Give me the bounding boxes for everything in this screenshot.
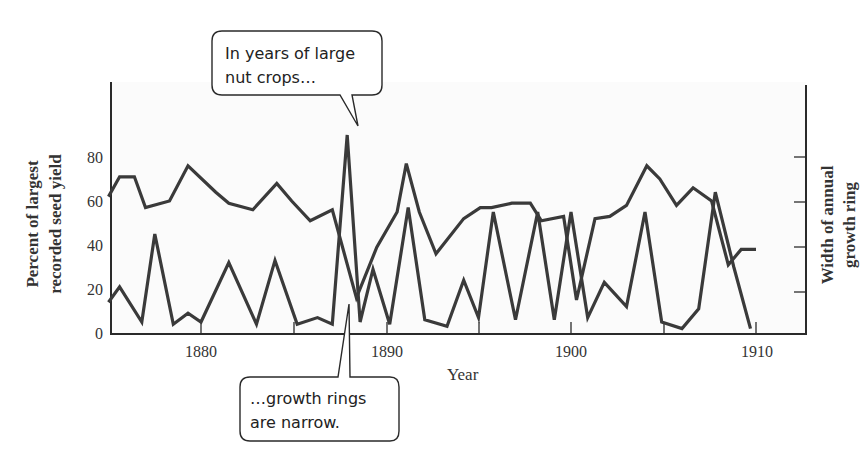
- y-tick-label-60: 60: [87, 193, 103, 210]
- right-y-axis-title: Width of annual growth ring: [818, 165, 859, 284]
- callout-bottom-line2: are narrow.: [250, 413, 340, 432]
- x-tick-label-1880: 1880: [185, 343, 217, 360]
- y-tick-label-20: 20: [87, 281, 103, 298]
- left-y-tick-labels: 80 60 40 20 0: [87, 149, 103, 342]
- left-y-axis-title-line2: recorded seed yield: [46, 154, 65, 294]
- x-tick-label-1900: 1900: [555, 343, 587, 360]
- x-tick-label-1890: 1890: [371, 343, 403, 360]
- y-tick-label-80: 80: [87, 149, 103, 166]
- right-y-axis-title-line1: Width of annual: [818, 165, 837, 284]
- left-y-axis-title-line1: Percent of largest: [23, 160, 42, 287]
- x-tick-labels: 1880 1890 1900 1910: [185, 343, 773, 360]
- x-tick-label-1910: 1910: [741, 343, 773, 360]
- x-axis-title: Year: [447, 365, 479, 384]
- y-tick-label-0: 0: [95, 325, 103, 342]
- callout-bottom-line1: …growth rings: [250, 389, 366, 408]
- y-tick-label-40: 40: [87, 237, 103, 254]
- callout-top-line1: In years of large: [225, 44, 355, 63]
- right-y-axis-title-line2: growth ring: [840, 181, 859, 268]
- chart-svg: 80 60 40 20 0 1880 1890 1900 1910 Year P…: [0, 0, 863, 464]
- left-y-axis-title: Percent of largest recorded seed yield: [23, 154, 65, 294]
- callout-top-line2: nut crops…: [225, 68, 316, 87]
